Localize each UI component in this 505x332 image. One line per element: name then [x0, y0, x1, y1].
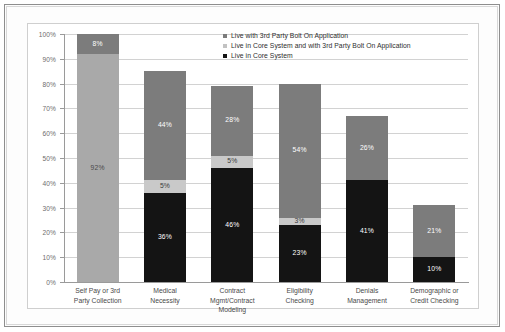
x-axis-category-label: DenialsManagement	[333, 286, 400, 305]
bar-segment: 5%	[211, 156, 253, 168]
bar-column: 92%8%	[77, 34, 119, 282]
x-axis-category-label: ContractMgmt/ContractModeling	[199, 286, 266, 315]
bar-value-label: 28%	[225, 117, 239, 124]
y-axis-tick-label: 60%	[43, 130, 57, 137]
legend-swatch-icon	[223, 54, 227, 58]
x-axis-category-label: Demographic orCredit Checking	[401, 286, 468, 305]
legend-item: Live with 3rd Party Bolt On Application	[223, 32, 473, 39]
bar-segment: 8%	[77, 34, 119, 54]
y-axis-tick-label: 0%	[46, 279, 56, 286]
y-axis-tick-label: 100%	[39, 31, 56, 38]
y-axis-tick-label: 30%	[43, 204, 57, 211]
chart-legend: Live with 3rd Party Bolt On ApplicationL…	[223, 32, 473, 63]
y-axis-tick-label: 90%	[43, 55, 57, 62]
y-axis-labels: 100%90%80%70%60%50%40%30%20%10%0%	[28, 24, 62, 292]
bar-value-label: 23%	[293, 250, 307, 257]
y-axis-tick-label: 80%	[43, 80, 57, 87]
bar-value-label: 21%	[427, 228, 441, 235]
bar-segment: 54%	[279, 84, 321, 218]
bar-column: 46%5%28%	[211, 34, 253, 282]
chart-panel: 100%90%80%70%60%50%40%30%20%10%0% 92%8%3…	[27, 23, 479, 309]
x-axis-category-label: Self Pay or 3rdParty Collection	[64, 286, 131, 305]
stacked-bars: 92%8%36%5%44%46%5%28%23%3%54%41%26%10%21…	[64, 34, 468, 282]
x-axis-category-label: MedicalNecessity	[131, 286, 198, 305]
bar-segment: 44%	[144, 71, 186, 180]
bar-value-label: 41%	[360, 228, 374, 235]
legend-swatch-icon	[223, 44, 227, 48]
legend-item-label: Live with 3rd Party Bolt On Application	[231, 32, 348, 39]
bar-segment: 5%	[144, 180, 186, 192]
image-outer-frame: 100%90%80%70%60%50%40%30%20%10%0% 92%8%3…	[4, 4, 500, 327]
legend-item: Live in Core System and with 3rd Party B…	[223, 42, 473, 49]
bar-segment: 23%	[279, 225, 321, 282]
bar-segment: 46%	[211, 168, 253, 282]
bar-column: 41%26%	[346, 34, 388, 282]
bar-segment: 36%	[144, 193, 186, 282]
bar-column: 23%3%54%	[279, 34, 321, 282]
bar-segment: 92%	[77, 54, 119, 282]
legend-item-label: Live in Core System	[231, 52, 293, 59]
bar-value-label: 5%	[160, 183, 170, 190]
bar-segment: 41%	[346, 180, 388, 282]
y-axis-tick-label: 20%	[43, 229, 57, 236]
x-axis-category-label: EligibilityChecking	[266, 286, 333, 305]
bar-segment: 26%	[346, 116, 388, 180]
bar-value-label: 36%	[158, 234, 172, 241]
bar-column: 36%5%44%	[144, 34, 186, 282]
bar-column: 10%21%	[413, 34, 455, 282]
legend-item: Live in Core System	[223, 52, 473, 59]
bar-value-label: 92%	[91, 165, 105, 172]
bar-value-label: 8%	[93, 41, 103, 48]
bar-value-label: 5%	[227, 158, 237, 165]
bar-value-label: 46%	[225, 222, 239, 229]
bar-segment: 10%	[413, 257, 455, 282]
y-axis-tick-label: 50%	[43, 155, 57, 162]
x-axis-labels: Self Pay or 3rdParty CollectionMedicalNe…	[64, 286, 468, 326]
x-axis-line	[64, 282, 469, 283]
bar-value-label: 44%	[158, 122, 172, 129]
bar-value-label: 3%	[295, 218, 305, 225]
bar-segment: 28%	[211, 86, 253, 155]
legend-item-label: Live in Core System and with 3rd Party B…	[231, 42, 411, 49]
legend-swatch-icon	[223, 34, 227, 38]
y-axis-tick-label: 10%	[43, 254, 57, 261]
bar-value-label: 54%	[293, 147, 307, 154]
y-axis-tick-label: 40%	[43, 179, 57, 186]
bar-segment: 21%	[413, 205, 455, 257]
bar-value-label: 10%	[427, 266, 441, 273]
bar-value-label: 26%	[360, 145, 374, 152]
bar-segment: 3%	[279, 218, 321, 225]
y-axis-tick-label: 70%	[43, 105, 57, 112]
